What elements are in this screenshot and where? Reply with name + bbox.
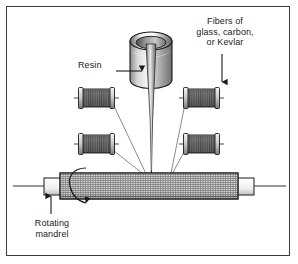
rotating-mandrel [13, 173, 286, 199]
label-fibers-of-glass-carbon-kevlar: Fibers of glass, carbon, or Kevlar [182, 16, 268, 48]
fiber-spool-upper-right [179, 88, 224, 109]
fiber-spool-lower-left [74, 134, 119, 155]
label-resin: Resin [78, 60, 118, 71]
fiber-spool-upper-left [74, 88, 119, 109]
fiber-spool-lower-right [179, 134, 224, 155]
fiber-strands [113, 104, 185, 178]
filament-winding-figure: Fibers of glass, carbon, or Kevlar Resin… [0, 0, 298, 264]
label-rotating-mandrel: Rotating mandrel [20, 218, 84, 239]
resin-stream [146, 44, 156, 176]
